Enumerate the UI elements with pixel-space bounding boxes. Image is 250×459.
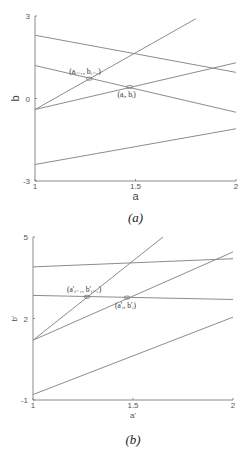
x-axis-label: a'	[130, 411, 136, 420]
x-tick-label: 2	[234, 182, 239, 191]
y-tick-label: 5	[24, 233, 29, 242]
series-line-5	[35, 129, 236, 165]
panel-a-chart: 11.5230-3(aᵢ₋₁, bᵢ₋₁)(aᵢ, bᵢ)ab(a)	[9, 12, 239, 225]
x-tick-label: 2	[231, 401, 236, 410]
y-tick-label: 0	[26, 95, 31, 104]
x-tick-label: 1	[31, 401, 36, 410]
y-tick-label: 2	[24, 315, 29, 324]
panel-caption: (b)	[125, 432, 140, 447]
intersection-label: (aᵢ, bᵢ)	[117, 90, 136, 99]
series-line-4	[35, 63, 236, 110]
series-line-3	[35, 19, 196, 110]
y-tick-label: -3	[23, 177, 31, 186]
y-axis-label: b'	[10, 315, 19, 321]
series-line-5	[33, 317, 233, 394]
x-tick-label: 1	[33, 182, 38, 191]
figure: 11.5230-3(aᵢ₋₁, bᵢ₋₁)(aᵢ, bᵢ)ab(a) 11.52…	[0, 0, 250, 459]
y-axis-label: b	[9, 95, 21, 101]
panel-b-chart: 11.5252-1(a'ᵢ₋₁, b'ᵢ₋₁)(a'ᵢ, b'ᵢ)a'b'(b)	[10, 233, 236, 447]
intersection-label: (aᵢ₋₁, bᵢ₋₁)	[69, 67, 101, 76]
x-tick-label: 1.5	[127, 401, 139, 410]
intersection-label: (a'ᵢ₋₁, b'ᵢ₋₁)	[67, 285, 102, 294]
intersection-label: (a'ᵢ, b'ᵢ)	[115, 301, 136, 310]
y-tick-label: -1	[21, 396, 29, 405]
x-axis-label: a	[132, 190, 139, 202]
panel-caption: (a)	[128, 210, 143, 225]
series-line-1	[35, 35, 236, 72]
series-line-2	[35, 66, 236, 113]
y-tick-label: 3	[26, 12, 31, 21]
